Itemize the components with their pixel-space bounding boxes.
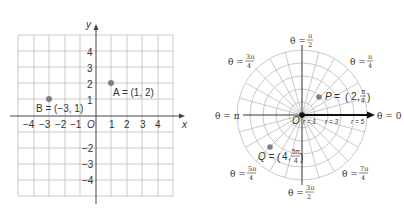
svg-text:1: 1	[109, 119, 115, 130]
point-q-label: Q = ( 4 , 5π 4 )	[258, 148, 303, 164]
svg-text:3π: 3π	[306, 184, 315, 192]
angle-label-pi: θ = π	[215, 111, 240, 121]
point-a	[108, 80, 114, 86]
svg-text:4: 4	[249, 174, 253, 182]
svg-text:−4: −4	[23, 119, 35, 130]
svg-text:−2: −2	[55, 119, 67, 130]
svg-text:r = 3: r = 3	[325, 118, 339, 125]
cartesian-axes	[10, 26, 183, 204]
svg-text:(: (	[345, 92, 349, 103]
svg-text:3π: 3π	[246, 53, 255, 61]
svg-text:4: 4	[294, 157, 298, 164]
svg-text:4: 4	[361, 174, 365, 182]
svg-text:r = 1: r = 1	[303, 118, 317, 125]
point-b	[46, 96, 52, 102]
svg-text:,: ,	[357, 91, 360, 102]
svg-text:4: 4	[368, 62, 372, 70]
svg-text:θ =: θ =	[350, 57, 366, 67]
svg-text:4: 4	[87, 47, 93, 58]
svg-text:7π: 7π	[360, 165, 369, 173]
svg-text:Q =: Q =	[258, 151, 275, 162]
origin-label: O	[87, 119, 95, 130]
svg-text:P =: P =	[325, 91, 340, 102]
svg-text:θ =: θ =	[342, 169, 358, 179]
svg-text:3: 3	[140, 119, 146, 130]
x-axis-arrow-icon	[179, 114, 185, 119]
pole-label: O	[292, 115, 300, 126]
angle-label-7pi-over-4: θ = 7π 4	[342, 165, 369, 182]
point-q	[267, 144, 273, 150]
svg-text:2: 2	[307, 193, 311, 201]
svg-text:2: 2	[308, 41, 312, 49]
angle-label-0: θ = 0	[377, 111, 402, 121]
point-p	[316, 94, 322, 100]
y-axis-arrow-icon	[94, 24, 99, 30]
svg-text:−1: −1	[70, 119, 82, 130]
angle-label-3pi-over-2: θ = 3π 2	[288, 184, 315, 201]
svg-text:(: (	[277, 152, 281, 163]
angle-label-5pi-over-4: θ = 5π 4	[230, 165, 257, 182]
svg-text:π: π	[361, 88, 366, 95]
svg-text:−4: −4	[82, 175, 94, 186]
svg-text:θ =: θ =	[288, 188, 304, 198]
radius-labels: r = 1 r = 3 r = 5	[303, 118, 365, 125]
svg-text:,: ,	[288, 151, 291, 162]
svg-text:4: 4	[247, 62, 251, 70]
svg-text:θ =: θ =	[228, 57, 244, 67]
svg-text:−2: −2	[82, 143, 94, 154]
point-a-label: A = (1, 2)	[113, 87, 154, 98]
svg-text:π: π	[368, 53, 373, 61]
x-axis-label: x	[181, 119, 188, 130]
diagram-canvas: x y O −4 −3 −2 −1 1 2 3 4 1 2 3 4 −2 −3 …	[0, 0, 404, 221]
svg-text:θ =: θ =	[230, 169, 246, 179]
y-axis-label: y	[85, 19, 92, 30]
svg-text:): )	[300, 152, 303, 163]
svg-text:4: 4	[361, 97, 365, 104]
pole-dot	[299, 112, 305, 118]
point-b-label: B = (−3, 1)	[36, 103, 83, 114]
svg-text:π: π	[308, 32, 313, 40]
angle-label-3pi-over-4: θ = 3π 4	[228, 53, 255, 70]
svg-text:2: 2	[124, 119, 130, 130]
svg-text:1: 1	[87, 95, 93, 106]
angle-label-pi-over-4: θ = π 4	[350, 53, 373, 70]
svg-text:r = 5: r = 5	[351, 118, 365, 125]
svg-text:−3: −3	[39, 119, 51, 130]
svg-text:−3: −3	[82, 159, 94, 170]
svg-text:): )	[367, 92, 370, 103]
svg-text:3: 3	[87, 63, 93, 74]
polar-axis-arrow-icon	[367, 112, 375, 119]
svg-text:5π: 5π	[248, 165, 257, 173]
svg-text:4: 4	[155, 119, 161, 130]
svg-text:θ =: θ =	[290, 36, 306, 46]
svg-text:2: 2	[87, 79, 93, 90]
